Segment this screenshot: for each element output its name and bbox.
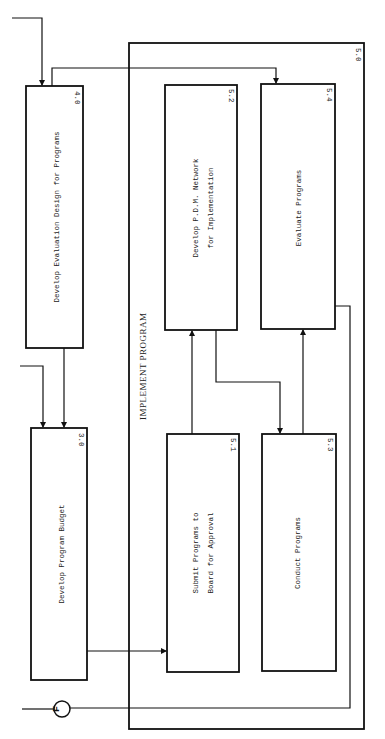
process-box-5-3: 5.3 Conduct Programs <box>262 434 336 671</box>
process-box-5-1: 5.1 Submit Programs to Board for Approva… <box>167 434 239 672</box>
process-box-5-2: 5.2 Develop P.D.M. Network for Implement… <box>165 85 237 330</box>
box-label: Evaluate Programs <box>295 170 303 247</box>
process-box-4-0: 4.0 Develop Evaluation Design for Progra… <box>26 86 83 348</box>
box-number: 5.3 <box>326 438 334 452</box>
connector-label: F <box>51 706 61 712</box>
flow-diagram: 5.0 IMPLEMENT PROGRAM 4.0 Develop Evalua… <box>0 0 385 739</box>
box-label-line-2: for Implementation <box>207 167 215 248</box>
off-page-connector-f: F <box>51 701 70 717</box>
box-number: 5.4 <box>325 88 333 102</box>
group-number: 5.0 <box>354 48 362 62</box>
edge-4-0-to-5-4 <box>52 68 276 86</box>
group-title: IMPLEMENT PROGRAM <box>138 312 148 420</box>
box-label: Develop Program Budget <box>58 504 66 603</box>
edge-input-to-4-0 <box>12 18 42 85</box>
box-number: 3.0 <box>77 433 85 447</box>
process-box-5-4: 5.4 Evaluate Programs <box>261 84 335 329</box>
box-label: Develop Evaluation Design for Programs <box>53 131 61 302</box>
edge-5-2-to-5-3 <box>216 330 280 433</box>
box-label-line-1: Submit Programs to <box>192 512 200 594</box>
box-label: Conduct Programs <box>294 517 302 589</box>
box-number: 5.1 <box>229 438 237 452</box>
process-box-3-0: 3.0 Develop Program Budget <box>31 428 87 680</box>
box-number: 4.0 <box>73 91 81 105</box>
edge-input-to-3-0 <box>20 366 43 427</box>
box-label-line-2: Board for Approval <box>207 512 215 594</box>
box-label-line-1: Develop P.D.M. Network <box>192 158 200 258</box>
box-number: 5.2 <box>227 89 235 103</box>
